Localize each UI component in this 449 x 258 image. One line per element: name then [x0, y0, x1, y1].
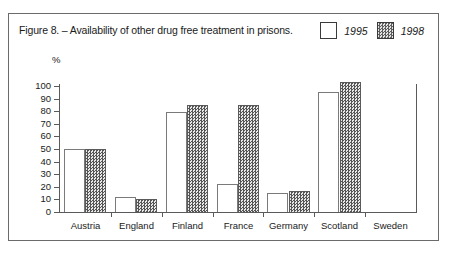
bar-austria-1995	[64, 149, 85, 212]
bar-finland-1995	[166, 112, 187, 212]
x-axis-tick	[213, 212, 214, 217]
figure-frame: Figure 8. – Availability of other drug f…	[8, 13, 439, 241]
y-axis-unit-label: %	[52, 54, 60, 65]
x-axis-tick	[314, 212, 315, 217]
y-axis-tick-label: 50	[27, 144, 51, 154]
y-axis-tick-label: 20	[27, 182, 51, 192]
right-axis-line	[416, 84, 417, 213]
y-axis-tick-label: 40	[27, 157, 51, 167]
bar-france-1995	[217, 184, 238, 212]
y-axis-tick	[54, 187, 59, 188]
x-axis-label-scotland: Scotland	[314, 220, 365, 231]
x-axis-label-austria: Austria	[60, 220, 111, 231]
x-axis-label-france: France	[213, 220, 264, 231]
y-axis-tick-label: 70	[27, 119, 51, 129]
x-axis-tick	[162, 212, 163, 217]
x-axis-label-england: England	[111, 220, 162, 231]
bar-austria-1998	[85, 149, 106, 212]
bar-germany-1998	[289, 191, 310, 212]
x-axis-tick	[365, 212, 366, 217]
y-axis-tick	[54, 86, 59, 87]
bar-scotland-1995	[318, 92, 339, 212]
y-axis-tick-label: 0	[27, 207, 51, 217]
y-axis-tick-label: 10	[27, 194, 51, 204]
y-axis-tick-label: 80	[27, 106, 51, 116]
y-axis-tick	[54, 99, 59, 100]
x-axis-line	[59, 212, 417, 213]
x-axis-tick	[111, 212, 112, 217]
y-axis-tick	[54, 149, 59, 150]
y-axis-tick	[54, 212, 59, 213]
y-axis-tick	[54, 124, 59, 125]
y-axis-tick-label: 100	[27, 81, 51, 91]
x-axis-label-germany: Germany	[263, 220, 314, 231]
x-axis-label-finland: Finland	[162, 220, 213, 231]
cropped-page-text	[150, 0, 440, 6]
bar-scotland-1998	[340, 82, 361, 212]
y-axis-tick-label: 60	[27, 131, 51, 141]
x-axis-label-sweden: Sweden	[365, 220, 416, 231]
bar-england-1998	[136, 199, 157, 212]
bar-france-1998	[238, 105, 259, 212]
y-axis-tick-label: 90	[27, 94, 51, 104]
y-axis-tick	[54, 199, 59, 200]
bar-finland-1998	[187, 105, 208, 212]
bar-germany-1995	[267, 193, 288, 212]
bar-england-1995	[115, 197, 136, 212]
x-axis-tick	[263, 212, 264, 217]
y-axis-tick	[54, 136, 59, 137]
y-axis-tick	[54, 162, 59, 163]
y-axis-tick	[54, 174, 59, 175]
bar-chart-plot: % 0102030405060708090100 AustriaEnglandF…	[9, 14, 440, 242]
y-axis-tick	[54, 111, 59, 112]
y-axis-line	[59, 84, 60, 213]
y-axis-tick-label: 30	[27, 169, 51, 179]
